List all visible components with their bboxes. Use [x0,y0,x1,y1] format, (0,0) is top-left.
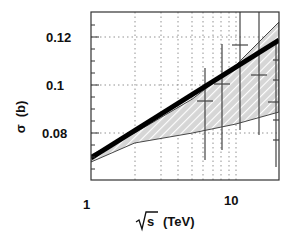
x-axis-unit: (TeV) [163,214,195,229]
x-tick-10: 10 [224,193,238,208]
x-axis-label: s (TeV) [136,212,195,229]
y-tick-0.08: 0.08 [42,126,67,141]
x-axis-variable: s [147,214,154,229]
y-tick-0.1: 0.1 [46,78,64,93]
cross-section-chart: 0.12 0.1 0.08 1 10 σ (b) s (TeV) [0,0,295,237]
x-tick-1: 1 [83,197,90,212]
y-axis-ticks [91,25,99,169]
y-axis-label: σ (b) [13,101,28,134]
y-tick-0.12: 0.12 [46,30,71,45]
